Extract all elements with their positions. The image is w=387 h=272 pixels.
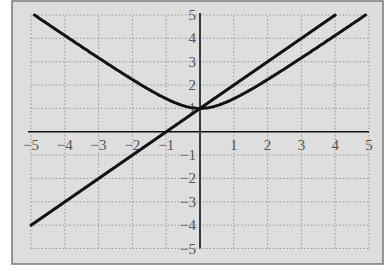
y-tick-label: −1 <box>180 147 196 163</box>
y-tick-label: 5 <box>189 7 197 23</box>
y-tick-label: −3 <box>180 194 196 210</box>
x-tick-label: 4 <box>331 137 339 153</box>
x-tick-label: −5 <box>23 137 39 153</box>
x-tick-label: 3 <box>298 137 306 153</box>
x-tick-label: 2 <box>264 137 272 153</box>
chart: −5−4−3−2−112345−5−4−3−2−112345 <box>0 0 387 272</box>
x-tick-label: 5 <box>365 137 373 153</box>
y-tick-label: −2 <box>180 170 196 186</box>
y-tick-label: 4 <box>189 30 197 46</box>
y-tick-label: 3 <box>189 54 197 70</box>
x-tick-label: −1 <box>158 137 174 153</box>
y-tick-label: −5 <box>180 241 196 257</box>
x-tick-label: −3 <box>91 137 107 153</box>
x-tick-label: −4 <box>57 137 73 153</box>
y-tick-label: −4 <box>180 217 196 233</box>
x-tick-label: 1 <box>230 137 238 153</box>
y-tick-label: 2 <box>189 77 197 93</box>
